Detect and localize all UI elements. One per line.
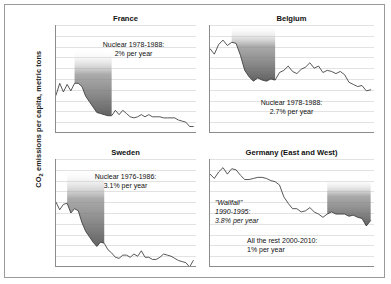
x-tick-mark — [371, 266, 372, 267]
panel-sweden: Sweden56789101112131415197519902010Nucle… — [55, 159, 196, 267]
plot-area-belgium: 56789101112131415197519902010 — [209, 25, 374, 133]
series-canvas-belgium — [210, 25, 374, 133]
panel-title-sweden: Sweden — [55, 148, 196, 157]
figure-frame: CO2 emissions per capita, metric tons Fr… — [4, 4, 385, 278]
annotation-rest-note-germany: All the rest 2000-2010:1% per year — [247, 237, 317, 255]
annotation-line: 1% per year — [247, 246, 317, 255]
x-tick-mark — [219, 132, 220, 133]
x-tick-mark — [284, 132, 285, 133]
annotation-line: All the rest 2000-2010: — [247, 237, 317, 246]
x-tick-mark — [219, 266, 220, 267]
shaded-band-france — [75, 49, 112, 115]
x-tick-mark — [193, 132, 194, 133]
annotation-line: 1990-1995: — [215, 208, 259, 217]
panel-title-germany: Germany (East and West) — [209, 148, 374, 157]
annotation-line: 3.8% per year — [215, 217, 259, 226]
x-tick-mark — [119, 266, 120, 267]
annotation-line: "Wallfall" — [215, 199, 259, 208]
annotation-nuclear-note-france: Nuclear 1978-1988:2% per year — [63, 41, 204, 59]
x-tick-mark — [63, 132, 64, 133]
annotation-nuclear-note-belgium: Nuclear 1978-1988:2.7% per year — [209, 99, 374, 117]
series-line-france — [56, 83, 193, 126]
annotation-line: 2.7% per year — [209, 108, 374, 117]
annotation-line: 3.1% per year — [55, 182, 196, 191]
series-line-belgium — [210, 40, 371, 91]
shaded-band-germany — [327, 178, 370, 226]
annotation-wallfall-note-germany: "Wallfall"1990-1995:3.8% per year — [215, 199, 259, 225]
panel-grid: France56789101112131415197519902010Nucle… — [33, 11, 382, 273]
x-tick-mark — [63, 266, 64, 267]
shaded-band-belgium — [232, 25, 275, 81]
panel-title-belgium: Belgium — [209, 14, 374, 23]
panel-title-france: France — [55, 14, 196, 23]
annotation-line: 2% per year — [63, 50, 204, 59]
annotation-line: Nuclear 1978-1988: — [209, 99, 374, 108]
x-tick-mark — [371, 132, 372, 133]
annotation-nuclear-note-sweden: Nuclear 1976-1986:3.1% per year — [55, 173, 196, 191]
x-tick-mark — [119, 132, 120, 133]
panel-germany: Germany (East and West)56789101112131415… — [209, 159, 374, 267]
x-tick-mark — [193, 266, 194, 267]
x-tick-mark — [284, 266, 285, 267]
panel-belgium: Belgium56789101112131415197519902010Nucl… — [209, 25, 374, 133]
annotation-line: Nuclear 1978-1988: — [63, 41, 204, 50]
panel-france: France56789101112131415197519902010Nucle… — [55, 25, 196, 133]
series-line-sweden — [56, 202, 193, 267]
annotation-line: Nuclear 1976-1986: — [55, 173, 196, 182]
